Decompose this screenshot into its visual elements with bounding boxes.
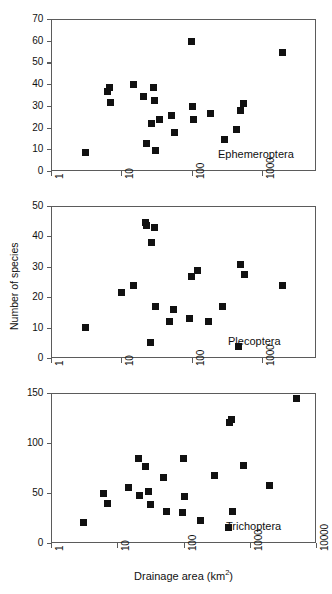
x-tick-label: 1: [55, 546, 65, 551]
y-tick-label: 50: [9, 201, 43, 211]
data-point: [170, 306, 177, 313]
data-point: [148, 120, 155, 127]
x-tick-label: 1000: [266, 158, 276, 179]
x-tick-label: 100: [196, 350, 206, 366]
data-point: [156, 116, 163, 123]
x-tick-mark: [117, 543, 118, 548]
data-point: [207, 110, 214, 117]
data-point: [163, 508, 170, 515]
x-tick-mark: [192, 171, 193, 176]
y-tick-label: 50: [9, 488, 43, 498]
data-point: [168, 112, 175, 119]
data-point: [136, 492, 143, 499]
data-point: [194, 267, 201, 274]
data-point: [181, 493, 188, 500]
data-point: [188, 38, 195, 45]
data-point: [266, 482, 273, 489]
data-point: [104, 500, 111, 507]
x-tick-label: 100: [188, 535, 198, 551]
data-point: [171, 129, 178, 136]
data-point: [240, 462, 247, 469]
y-tick-label: 20: [9, 123, 43, 133]
data-point: [205, 318, 212, 325]
x-tick-label: 10000: [320, 524, 330, 551]
y-tick-mark: [47, 443, 51, 444]
data-point: [179, 509, 186, 516]
data-point: [107, 99, 114, 106]
y-tick-label: 150: [9, 388, 43, 398]
data-point: [130, 282, 137, 289]
y-tick-label: 60: [9, 36, 43, 46]
data-point: [135, 455, 142, 462]
data-point: [279, 49, 286, 56]
data-point: [241, 271, 248, 278]
x-tick-mark: [184, 543, 185, 548]
y-tick-mark: [47, 19, 51, 20]
data-point: [118, 289, 125, 296]
y-tick-mark: [47, 267, 51, 268]
x-tick-mark: [316, 543, 317, 548]
y-tick-mark: [47, 328, 51, 329]
y-tick-mark: [47, 236, 51, 237]
figure-root: Ephemeroptera 0102030405060701101001000 …: [0, 0, 332, 594]
data-point: [225, 524, 232, 531]
y-tick-label: 0: [9, 538, 43, 548]
data-point: [148, 239, 155, 246]
x-tick-label: 100: [196, 163, 206, 179]
data-point: [235, 343, 242, 350]
data-point: [190, 116, 197, 123]
y-tick-label: 40: [9, 79, 43, 89]
data-point: [197, 517, 204, 524]
data-point: [106, 84, 113, 91]
data-point: [147, 339, 154, 346]
data-point: [228, 416, 235, 423]
x-axis-title-paren: ): [229, 570, 233, 582]
data-point: [237, 107, 244, 114]
y-tick-mark: [47, 393, 51, 394]
data-point: [82, 324, 89, 331]
y-tick-label: 100: [9, 438, 43, 448]
x-tick-mark: [250, 543, 251, 548]
x-tick-mark: [262, 358, 263, 363]
x-tick-mark: [192, 358, 193, 363]
y-tick-label: 50: [9, 57, 43, 67]
data-point: [211, 472, 218, 479]
x-axis-title: Drainage area (km2): [51, 568, 316, 582]
data-point: [219, 303, 226, 310]
y-tick-label: 10: [9, 144, 43, 154]
y-tick-label: 30: [9, 101, 43, 111]
data-point: [237, 261, 244, 268]
x-tick-mark: [51, 358, 52, 363]
x-tick-label: 10: [121, 540, 131, 551]
x-tick-label: 1: [55, 361, 65, 366]
data-point: [130, 81, 137, 88]
x-tick-mark: [262, 171, 263, 176]
y-tick-mark: [47, 41, 51, 42]
panel-plecoptera: Plecoptera 010203040501101001000: [0, 190, 332, 380]
data-point: [147, 501, 154, 508]
x-axis-title-text: Drainage area (km: [134, 570, 225, 582]
y-axis-title: Number of species: [8, 242, 20, 330]
data-point: [186, 315, 193, 322]
data-point: [293, 395, 300, 402]
y-tick-label: 0: [9, 353, 43, 363]
panel-ephemeroptera: Ephemeroptera 0102030405060701101001000: [0, 0, 332, 190]
data-point: [189, 103, 196, 110]
data-point: [152, 303, 159, 310]
data-point: [145, 488, 152, 495]
y-tick-label: 70: [9, 14, 43, 24]
x-tick-mark: [121, 171, 122, 176]
data-point: [80, 519, 87, 526]
data-point: [125, 484, 132, 491]
data-point: [180, 455, 187, 462]
y-tick-label: 0: [9, 166, 43, 176]
x-tick-label: 1: [55, 174, 65, 179]
y-tick-label: 40: [9, 231, 43, 241]
data-point: [151, 224, 158, 231]
data-point: [143, 140, 150, 147]
data-point: [166, 318, 173, 325]
x-tick-mark: [51, 543, 52, 548]
y-tick-mark: [47, 106, 51, 107]
panel-trichoptera: Trichoptera 050100150110100100010000: [0, 380, 332, 594]
x-tick-mark: [121, 358, 122, 363]
